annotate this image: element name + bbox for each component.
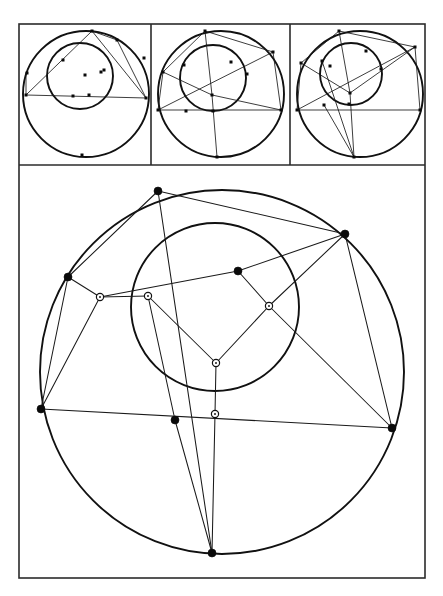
vertex-marker-filled: [162, 71, 165, 74]
small-panel-3: [296, 30, 424, 159]
chord-segment: [238, 271, 269, 306]
outer-circumcircle: [40, 190, 404, 554]
tangency-marker: [88, 94, 91, 97]
tangency-marker: [84, 74, 87, 77]
vertex-marker-filled: [300, 62, 303, 65]
vertex-marker-filled: [116, 39, 119, 42]
chord-segment: [100, 271, 238, 297]
chord-segment: [238, 234, 345, 271]
vertex-marker-filled: [26, 72, 29, 75]
outer-circumcircle: [23, 31, 149, 157]
vertex-marker-filled: [280, 109, 283, 112]
inner-caustic-circle: [180, 45, 246, 111]
tangency-marker: [230, 61, 233, 64]
vertex-marker-filled: [216, 156, 219, 159]
tangency-marker-core: [214, 413, 216, 415]
tangency-marker: [183, 64, 186, 67]
vertex-marker-filled: [145, 97, 148, 100]
inner-caustic-circle: [47, 43, 113, 109]
chord-segment: [175, 420, 212, 553]
chord-segment: [339, 31, 350, 93]
geometry-figure-page: [0, 0, 443, 596]
tangency-marker-core: [268, 305, 270, 307]
tangency-marker: [185, 110, 188, 113]
chord-segment: [212, 414, 215, 553]
tangency-marker-core: [215, 362, 217, 364]
small-panel-1: [23, 30, 149, 158]
vertex-marker-filled: [272, 51, 275, 54]
figure-canvas: [0, 0, 443, 596]
tangency-marker: [72, 95, 75, 98]
chord-segment: [269, 234, 345, 306]
chord-segment: [68, 277, 100, 297]
vertex-marker-filled: [157, 109, 160, 112]
inner-caustic-circle: [320, 43, 382, 105]
tangency-marker: [321, 60, 324, 63]
vertex-marker-filled: [353, 156, 356, 159]
tangency-marker: [103, 69, 106, 72]
vertex-marker-filled: [81, 154, 84, 157]
vertex-marker-filled: [64, 273, 72, 281]
vertex-marker-filled: [414, 46, 417, 49]
chord-segment: [269, 306, 392, 428]
figure-outer-frame: [19, 24, 425, 578]
vertex-marker-filled: [143, 57, 146, 60]
chord-segment: [158, 191, 212, 553]
tangency-marker: [246, 73, 249, 76]
vertex-marker-filled: [388, 424, 396, 432]
tangency-marker-core: [99, 296, 101, 298]
tangency-marker: [365, 50, 368, 53]
chord-segment: [163, 72, 212, 95]
tangency-marker: [380, 68, 383, 71]
chord-segment: [215, 363, 216, 414]
tangency-marker: [323, 104, 326, 107]
tangency-marker: [100, 71, 103, 74]
tangency-marker-core: [147, 295, 149, 297]
tangency-marker: [62, 59, 65, 62]
tangency-marker: [329, 65, 332, 68]
vertex-marker-filled: [37, 405, 45, 413]
chord-segment: [212, 95, 217, 157]
chord-segment: [301, 63, 350, 93]
vertex-marker-filled: [154, 187, 162, 195]
chord-segment: [212, 95, 281, 110]
tangency-marker: [211, 94, 214, 97]
vertex-marker-filled: [208, 549, 216, 557]
chord-segment: [148, 296, 175, 420]
vertex-marker-filled: [234, 267, 242, 275]
main-poncelet-diagram: [37, 187, 404, 557]
chord-segment: [41, 277, 68, 409]
chord-segment: [301, 31, 339, 63]
chord-segment: [415, 47, 420, 110]
vertex-marker-filled: [25, 94, 28, 97]
chord-segment: [26, 31, 92, 95]
vertex-marker-filled: [296, 109, 299, 112]
chord-segment: [68, 191, 158, 277]
vertex-marker-filled: [91, 30, 94, 33]
chord-segment: [158, 52, 273, 110]
vertex-marker-filled: [204, 30, 207, 33]
vertex-marker-filled: [419, 109, 422, 112]
tangency-marker: [212, 110, 215, 113]
chord-segment: [322, 61, 354, 157]
vertex-marker-filled: [338, 30, 341, 33]
tangency-marker: [349, 92, 352, 95]
vertex-marker-filled: [171, 416, 179, 424]
chord-segment: [216, 306, 269, 363]
chord-segment: [297, 47, 415, 110]
chord-segment: [273, 52, 281, 110]
vertex-marker-filled: [341, 230, 349, 238]
tangency-marker: [348, 103, 351, 106]
chord-segment: [117, 40, 146, 98]
small-panel-2: [157, 30, 285, 159]
chord-segment: [26, 95, 146, 98]
